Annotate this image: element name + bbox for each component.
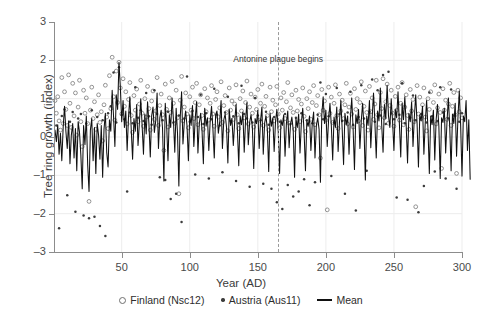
- data-point-finland: [84, 96, 88, 100]
- data-point-finland: [210, 84, 214, 88]
- data-point-finland: [437, 92, 441, 96]
- data-point-austria: [134, 86, 137, 89]
- data-point-finland: [97, 93, 101, 97]
- data-point-finland: [68, 101, 72, 105]
- data-point-finland: [368, 85, 372, 89]
- data-point-finland: [306, 107, 310, 111]
- data-point-finland: [396, 85, 400, 89]
- data-point-finland: [93, 100, 97, 104]
- data-point-finland: [271, 98, 275, 102]
- data-point-finland: [82, 88, 86, 92]
- data-point-austria: [376, 89, 379, 92]
- data-point-finland: [329, 95, 333, 99]
- data-point-finland: [121, 77, 125, 81]
- data-point-finland: [215, 90, 219, 94]
- data-point-finland: [414, 205, 418, 209]
- data-point-finland: [441, 87, 445, 91]
- data-point-austria: [208, 177, 211, 180]
- data-point-finland: [169, 111, 173, 115]
- data-point-finland: [263, 104, 267, 108]
- data-point-austria: [346, 111, 349, 114]
- data-point-austria: [254, 97, 257, 100]
- data-point-finland: [332, 101, 336, 105]
- data-point-finland: [59, 128, 63, 132]
- data-point-austria: [82, 214, 85, 217]
- data-point-finland: [241, 89, 245, 93]
- data-point-austria: [450, 88, 453, 91]
- data-point-finland: [268, 85, 272, 89]
- data-point-finland: [260, 82, 264, 86]
- data-point-finland: [381, 77, 385, 81]
- data-point-finland: [110, 55, 114, 59]
- y-tick-label: 3: [10, 15, 46, 27]
- data-point-finland: [222, 104, 226, 108]
- data-point-austria: [461, 112, 464, 115]
- data-point-finland: [282, 91, 286, 95]
- data-point-austria: [262, 183, 265, 186]
- legend-item-mean[interactable]: Mean: [317, 294, 362, 306]
- data-point-finland: [188, 95, 192, 99]
- x-tick-label: 150: [236, 261, 280, 273]
- data-point-finland: [78, 78, 82, 82]
- data-point-austria: [428, 91, 431, 94]
- data-point-finland: [167, 96, 171, 100]
- data-point-finland: [365, 111, 369, 115]
- data-point-finland: [191, 85, 195, 89]
- y-tick-label: 0: [10, 130, 46, 142]
- data-point-austria: [224, 111, 227, 114]
- data-point-austria: [169, 198, 172, 201]
- data-point-austria: [194, 173, 197, 176]
- data-point-austria: [101, 119, 104, 122]
- data-point-finland: [83, 111, 87, 115]
- y-tick-label: 2: [10, 53, 46, 65]
- data-point-finland: [374, 78, 378, 82]
- data-point-austria: [99, 225, 102, 228]
- data-point-finland: [359, 80, 363, 84]
- x-tick-label: 100: [168, 261, 212, 273]
- data-point-finland: [219, 80, 223, 84]
- data-point-finland: [384, 100, 388, 104]
- x-tick: [122, 253, 123, 258]
- data-point-finland: [422, 86, 426, 90]
- data-point-finland: [295, 109, 299, 113]
- data-point-finland: [301, 86, 305, 90]
- data-point-austria: [387, 71, 390, 74]
- data-point-finland: [206, 96, 210, 100]
- chart-legend: Finland (Nsc12) Austria (Aus11) Mean: [0, 294, 482, 306]
- data-point-finland: [140, 111, 144, 115]
- data-point-finland: [325, 208, 329, 212]
- x-tick-label: 300: [440, 261, 482, 273]
- data-point-finland: [452, 91, 456, 95]
- data-point-finland: [223, 94, 227, 98]
- data-point-finland: [264, 94, 268, 98]
- data-point-finland: [408, 88, 412, 92]
- data-point-finland: [358, 101, 362, 105]
- data-point-finland: [124, 90, 128, 94]
- data-point-austria: [270, 188, 273, 191]
- data-point-finland: [389, 88, 393, 92]
- data-point-austria: [344, 192, 347, 195]
- data-point-finland: [180, 75, 184, 79]
- data-point-finland: [316, 94, 320, 98]
- data-point-finland: [380, 107, 384, 111]
- data-point-finland: [227, 86, 231, 90]
- data-point-finland: [280, 108, 284, 112]
- data-point-austria: [412, 94, 415, 97]
- data-point-finland: [299, 102, 303, 106]
- data-point-austria: [235, 180, 238, 183]
- data-point-finland: [393, 94, 397, 98]
- data-point-finland: [158, 104, 162, 108]
- data-point-finland: [159, 92, 163, 96]
- data-point-austria: [227, 96, 230, 99]
- mean-line: [55, 62, 470, 191]
- data-point-finland: [57, 119, 61, 123]
- line-marker-icon: [317, 299, 332, 301]
- data-point-finland: [245, 79, 249, 83]
- legend-item-finland[interactable]: Finland (Nsc12): [119, 294, 204, 306]
- data-point-austria: [444, 177, 447, 180]
- data-point-finland: [411, 98, 415, 102]
- data-point-finland: [63, 90, 67, 94]
- legend-item-austria[interactable]: Austria (Aus11): [221, 294, 300, 306]
- data-point-austria: [336, 87, 339, 90]
- data-point-austria: [58, 227, 61, 230]
